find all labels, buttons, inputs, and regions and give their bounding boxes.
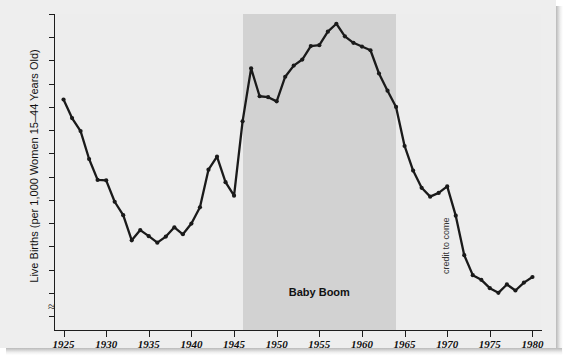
data-point-1955	[317, 43, 321, 47]
x-tick-label-1950: 1950	[266, 338, 288, 350]
x-tick-label-1970: 1970	[436, 338, 458, 350]
x-tick-1950	[277, 331, 278, 337]
y-tick-65	[49, 293, 55, 294]
y-tick-95	[49, 153, 55, 154]
y-tick-125	[49, 14, 55, 15]
x-tick-label-1945: 1945	[223, 338, 245, 350]
data-point-1948	[258, 94, 262, 98]
x-axis-line	[54, 330, 542, 331]
x-tick-1965	[405, 331, 406, 337]
data-point-1928	[87, 157, 91, 161]
x-tick-label-1975: 1975	[479, 338, 501, 350]
data-point-1959	[351, 41, 355, 45]
data-point-1965	[402, 144, 406, 148]
data-point-1940	[189, 221, 193, 225]
data-point-1942	[206, 168, 210, 172]
data-point-1947	[249, 66, 253, 70]
y-tick-70	[49, 270, 55, 271]
data-point-1931	[113, 200, 117, 204]
data-point-1961	[368, 48, 372, 52]
data-point-1933	[130, 238, 134, 242]
x-tick-1945	[234, 331, 235, 337]
data-point-1935	[147, 234, 151, 238]
data-point-1970	[445, 184, 449, 188]
x-tick-1960	[362, 331, 363, 337]
x-tick-1925	[64, 331, 65, 337]
data-point-1962	[377, 71, 381, 75]
data-point-1979	[522, 281, 526, 285]
y-tick-105	[49, 107, 55, 108]
series-line	[64, 24, 533, 293]
data-point-1960	[360, 44, 364, 48]
data-point-1963	[385, 89, 389, 93]
data-point-1975	[488, 286, 492, 290]
data-point-1939	[181, 232, 185, 236]
y-tick-85	[49, 200, 55, 201]
x-tick-label-1960: 1960	[351, 338, 373, 350]
data-point-1974	[479, 278, 483, 282]
data-point-1958	[343, 34, 347, 38]
data-point-1932	[121, 213, 125, 217]
data-point-1926	[70, 116, 74, 120]
data-point-1938	[172, 225, 176, 229]
data-point-1966	[411, 169, 415, 173]
x-tick-1970	[447, 331, 448, 337]
data-point-1949	[266, 95, 270, 99]
data-point-1953	[300, 57, 304, 61]
data-point-1945	[232, 194, 236, 198]
data-point-1969	[437, 191, 441, 195]
data-point-1956	[326, 30, 330, 34]
x-tick-1975	[490, 331, 491, 337]
data-point-1978	[513, 288, 517, 292]
data-point-1968	[428, 195, 432, 199]
data-point-1929	[96, 178, 100, 182]
x-tick-label-1930: 1930	[95, 338, 117, 350]
data-point-1957	[334, 22, 338, 26]
data-point-1934	[138, 228, 142, 232]
data-point-1971	[454, 214, 458, 218]
data-point-1943	[215, 155, 219, 159]
data-point-1950	[275, 99, 279, 103]
y-tick-75	[49, 246, 55, 247]
y-tick-80	[49, 223, 55, 224]
x-tick-label-1965: 1965	[394, 338, 416, 350]
y-tick-115	[49, 60, 55, 61]
y-tick-90	[49, 177, 55, 178]
data-point-1941	[198, 205, 202, 209]
data-point-1925	[61, 97, 65, 101]
data-point-1964	[394, 105, 398, 109]
panel-shadow-right	[556, 6, 563, 354]
data-point-1952	[292, 63, 296, 67]
data-point-1946	[240, 119, 244, 123]
data-point-1930	[104, 178, 108, 182]
data-point-1976	[496, 291, 500, 295]
data-point-1967	[420, 186, 424, 190]
data-point-1954	[309, 44, 313, 48]
data-point-1937	[164, 234, 168, 238]
x-tick-1935	[149, 331, 150, 337]
data-point-1944	[223, 180, 227, 184]
data-point-1936	[155, 241, 159, 245]
axis-break-icon: ≈	[48, 300, 61, 318]
x-tick-label-1980: 1980	[521, 338, 543, 350]
line-series	[55, 14, 541, 330]
data-point-1927	[78, 129, 82, 133]
x-tick-1955	[319, 331, 320, 337]
data-point-1951	[283, 75, 287, 79]
y-tick-100	[49, 130, 55, 131]
x-tick-label-1935: 1935	[138, 338, 160, 350]
x-tick-label-1955: 1955	[308, 338, 330, 350]
data-point-1980	[530, 275, 534, 279]
plot-area: Baby Boom credit to come	[55, 14, 541, 330]
x-tick-label-1940: 1940	[180, 338, 202, 350]
y-tick-120	[49, 37, 55, 38]
data-point-1972	[462, 253, 466, 257]
x-tick-1930	[106, 331, 107, 337]
x-tick-label-1925: 1925	[53, 338, 75, 350]
y-tick-110	[49, 84, 55, 85]
data-point-1973	[471, 273, 475, 277]
y-axis-title: Live Births (per 1,000 Women 15–44 Years…	[28, 16, 40, 316]
x-tick-1980	[532, 331, 533, 337]
x-tick-1940	[191, 331, 192, 337]
data-point-1977	[505, 282, 509, 286]
